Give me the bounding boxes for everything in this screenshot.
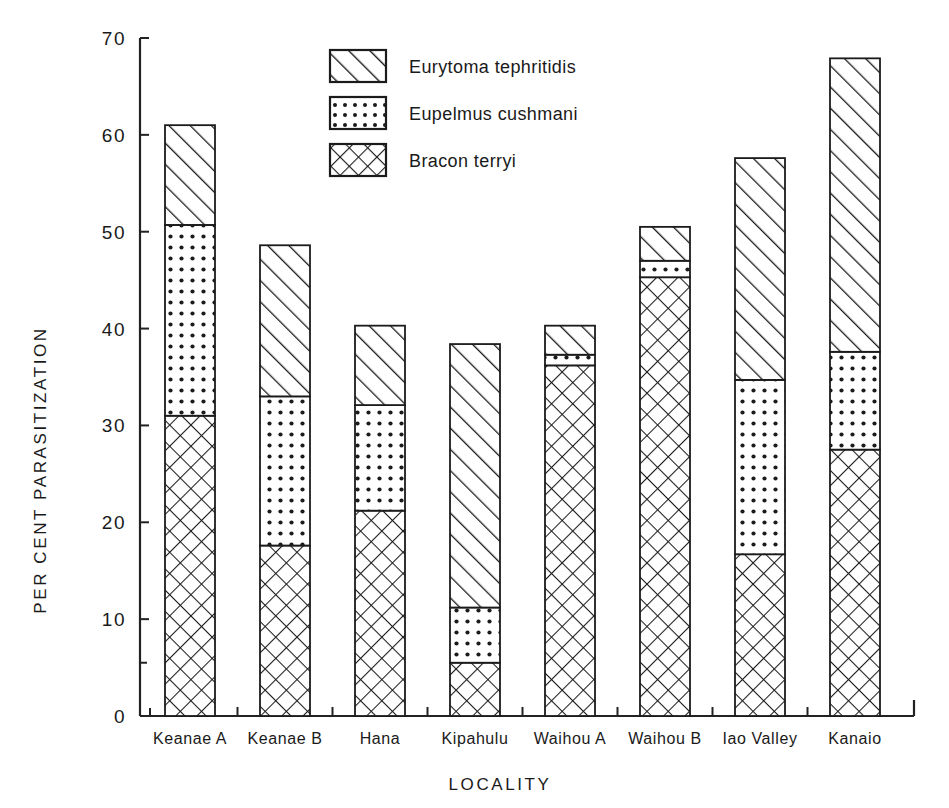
x-axis-title: LOCALITY (449, 775, 552, 794)
y-tick-label: 0 (114, 706, 126, 727)
bar-segment (830, 450, 880, 716)
bar-segment (260, 245, 310, 396)
bar-segment (260, 396, 310, 545)
bar-segment (830, 58, 880, 351)
y-tick-label: 60 (102, 125, 126, 146)
bar-segment (545, 326, 595, 355)
bar-segment (355, 326, 405, 405)
category-label: Keanae B (247, 730, 322, 747)
bar-segment (450, 344, 500, 607)
legend-swatch (330, 50, 386, 82)
category-label: Keanae A (153, 730, 227, 747)
bar-segment (640, 227, 690, 261)
bar-segment (260, 546, 310, 716)
bar-segment (640, 277, 690, 716)
legend-swatch (330, 97, 386, 129)
bar-segment (545, 355, 595, 366)
y-tick-label: 20 (102, 512, 126, 533)
legend-swatch (330, 144, 386, 176)
bar-segment (735, 158, 785, 380)
chart-canvas: 010203040506070 Keanae AKeanae BHanaKipa… (0, 0, 949, 808)
category-label: Kanaio (828, 730, 881, 747)
bar-segment (450, 608, 500, 663)
legend-label: Eupelmus cushmani (409, 104, 578, 124)
bar-segment (165, 125, 215, 225)
category-label: Iao Valley (722, 730, 797, 747)
parasitization-bar-chart: 010203040506070 Keanae AKeanae BHanaKipa… (0, 0, 949, 808)
bar-segment (165, 225, 215, 416)
bar-segment (355, 511, 405, 716)
bar-segment (355, 405, 405, 511)
y-tick-label: 30 (102, 415, 126, 436)
y-tick-label: 70 (102, 28, 126, 49)
bar-segment (830, 352, 880, 450)
y-axis-title: PER CENT PARASITIZATION (31, 326, 50, 613)
legend-label: Bracon terryi (409, 151, 516, 171)
y-tick-label: 40 (102, 319, 126, 340)
bar-segment (735, 380, 785, 554)
bar-segment (545, 365, 595, 716)
category-label: Kipahulu (441, 730, 508, 747)
category-label: Waihou B (628, 730, 702, 747)
y-tick-label: 50 (102, 222, 126, 243)
bar-segment (165, 416, 215, 716)
y-tick-label: 10 (102, 609, 126, 630)
bar-segment (735, 554, 785, 716)
category-label: Waihou A (534, 730, 607, 747)
category-label: Hana (360, 730, 401, 747)
bar-segment (450, 663, 500, 716)
legend-label: Eurytoma tephritidis (409, 57, 576, 77)
bar-segment (640, 261, 690, 277)
